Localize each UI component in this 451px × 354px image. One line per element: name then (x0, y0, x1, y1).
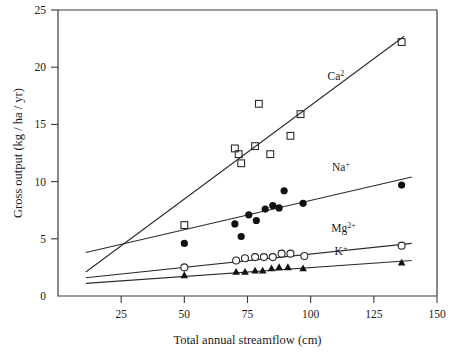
data-point (398, 181, 405, 188)
data-point (275, 204, 282, 211)
x-tick-label: 150 (428, 308, 446, 320)
data-point (269, 202, 276, 209)
data-point (299, 200, 306, 207)
y-tick-label: 25 (35, 4, 47, 16)
data-point (241, 255, 248, 262)
y-axis-title: Gross output (kg / ha / yr) (11, 88, 25, 218)
x-tick-label: 100 (302, 308, 320, 320)
plot-svg: 0510152025255075100125150 Ca2Na+Mg2+K+ T… (0, 0, 451, 354)
x-tick-label: 125 (365, 308, 383, 320)
data-point (181, 264, 188, 271)
data-point (238, 233, 245, 240)
data-point (278, 250, 285, 257)
data-point (253, 217, 260, 224)
data-point (301, 252, 308, 259)
data-point (269, 254, 276, 261)
data-point (252, 254, 259, 261)
chart-background (0, 0, 451, 354)
x-tick-label: 50 (179, 308, 191, 320)
data-point (281, 187, 288, 194)
data-point (181, 240, 188, 247)
data-point (231, 220, 238, 227)
x-axis-title: Total annual streamflow (cm) (173, 333, 321, 347)
data-point (287, 250, 294, 257)
data-point (260, 254, 267, 261)
data-point (262, 205, 269, 212)
y-tick-label: 10 (35, 176, 47, 188)
data-point (398, 242, 405, 249)
y-tick-label: 5 (40, 233, 46, 245)
y-tick-label: 20 (35, 61, 47, 73)
x-tick-label: 75 (242, 308, 254, 320)
x-tick-label: 25 (115, 308, 127, 320)
scatter-chart: 0510152025255075100125150 Ca2Na+Mg2+K+ T… (0, 0, 451, 354)
y-tick-label: 0 (40, 290, 46, 302)
data-point (245, 211, 252, 218)
data-point (233, 257, 240, 264)
y-tick-label: 15 (35, 118, 47, 130)
